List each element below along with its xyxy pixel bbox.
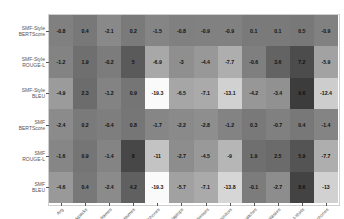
y-tick-label: SMF-StyleBLEU — [0, 87, 45, 99]
y-tick-label: SMF-StyleBERTScore — [0, 25, 45, 37]
heatmap-cell: -1.6 — [49, 140, 73, 171]
heatmap-cell: 1.9 — [242, 140, 266, 171]
heatmap-cell: -4.9 — [49, 78, 73, 109]
y-tick-label-line: BERTScore — [0, 31, 45, 37]
heatmap-cell: -2.2 — [169, 109, 193, 140]
heatmap-cell: 5.9 — [290, 140, 314, 171]
y-tick-label: SMFROUGE-L — [0, 150, 45, 162]
heatmap-cell: -2.7 — [169, 140, 193, 171]
heatmap-cell: 0.4 — [73, 172, 97, 203]
heatmap-cell: 0.4 — [290, 109, 314, 140]
x-tick — [302, 203, 303, 206]
heatmap-cell: -5.7 — [169, 172, 193, 203]
x-tick-label: backpacks — [69, 207, 88, 219]
heatmap-cell: -0.2 — [97, 46, 121, 77]
x-tick — [133, 203, 134, 206]
x-tick-label: bed-frames — [93, 207, 113, 219]
heatmap-cell: -1.5 — [145, 15, 169, 46]
x-tick-label: t-shirts — [292, 207, 305, 219]
heatmap-cell: -0.7 — [266, 109, 290, 140]
heatmap-cell: -19.3 — [145, 172, 169, 203]
y-tick-label: SMFBERTScore — [0, 119, 45, 131]
x-tick-label: costumes — [119, 207, 136, 219]
heatmap-cell: -6.9 — [145, 46, 169, 77]
x-tick-label: Avg — [55, 207, 64, 216]
heatmap-cell: -11 — [145, 140, 169, 171]
x-tick — [181, 203, 182, 206]
heatmap-cell: -19.3 — [145, 78, 169, 109]
y-tick — [46, 31, 49, 32]
heatmap-grid: -0.80.4-2.10.2-1.5-0.8-0.9-0.90.10.10.5-… — [49, 15, 338, 203]
x-tick-label: headphones — [140, 207, 161, 219]
y-tick-label-line: BERTScore — [0, 125, 45, 131]
y-tick — [46, 93, 49, 94]
heatmap-cell: -1.4 — [314, 109, 338, 140]
y-tick — [46, 156, 49, 157]
heatmap-cell: -0.8 — [49, 15, 73, 46]
heatmap-cell: 9.6 — [290, 78, 314, 109]
heatmap-chart: -0.80.4-2.10.2-1.5-0.8-0.9-0.90.10.10.5-… — [0, 0, 344, 219]
heatmap-cell: 1.9 — [73, 46, 97, 77]
heatmap-cell: 0.1 — [266, 15, 290, 46]
heatmap-cell: 0.5 — [290, 15, 314, 46]
heatmap-cell: -0.9 — [194, 15, 218, 46]
heatmap-cell: -9 — [218, 140, 242, 171]
heatmap-cell: -7.1 — [194, 172, 218, 203]
heatmap-cell: 0.3 — [242, 109, 266, 140]
heatmap-cell: -4.4 — [194, 46, 218, 77]
heatmap-cell: -4.5 — [194, 140, 218, 171]
heatmap-cell: -2.7 — [266, 172, 290, 203]
heatmap-cell: -0.4 — [97, 109, 121, 140]
x-tick-label: unlocked-phones — [301, 207, 329, 219]
heatmap-cell: -13.1 — [218, 78, 242, 109]
heatmap-cell: -5.9 — [314, 46, 338, 77]
x-tick — [109, 203, 110, 206]
x-tick — [326, 203, 327, 206]
heatmap-cell: -1.2 — [49, 46, 73, 77]
heatmap-cell: 0.4 — [73, 15, 97, 46]
heatmap-cell: -4.2 — [242, 78, 266, 109]
heatmap-cell: 2.5 — [266, 140, 290, 171]
heatmap-cell: -12.4 — [314, 78, 338, 109]
heatmap-cell: -0.9 — [218, 15, 242, 46]
heatmap-cell: 7.2 — [290, 46, 314, 77]
heatmap-cell: -2.4 — [49, 109, 73, 140]
heatmap-cell: 0.2 — [73, 109, 97, 140]
heatmap-cell: -13.8 — [218, 172, 242, 203]
heatmap-cell: 0.1 — [242, 15, 266, 46]
heatmap-cell: -0.9 — [314, 15, 338, 46]
x-tick-label: smartwatches — [234, 207, 258, 219]
heatmap-cell: 8 — [121, 140, 145, 171]
heatmap-cell: -0.6 — [242, 46, 266, 77]
y-tick-label: SMF-StyleROUGE-L — [0, 56, 45, 68]
heatmap-cell: -4.6 — [49, 172, 73, 203]
heatmap-cell: -3 — [169, 46, 193, 77]
x-tick-label: monitors — [217, 207, 233, 219]
heatmap-cell: 0.9 — [73, 140, 97, 171]
heatmap-cell: -1.7 — [145, 109, 169, 140]
heatmap-cell: 5 — [121, 46, 145, 77]
heatmap-cell: 0.2 — [121, 15, 145, 46]
y-tick-label: SMFBLEU — [0, 181, 45, 193]
x-tick — [85, 203, 86, 206]
x-tick — [157, 203, 158, 206]
heatmap-cell: 0.8 — [121, 109, 145, 140]
y-tick-label-line: BLEU — [0, 187, 45, 193]
heatmap-cell: -2.1 — [97, 15, 121, 46]
y-tick-label-line: BLEU — [0, 93, 45, 99]
y-tick — [46, 187, 49, 188]
heatmap-cell: 0.9 — [121, 78, 145, 109]
x-tick-label: mattresses — [190, 207, 209, 219]
x-tick-label: sunglasses — [262, 207, 282, 219]
heatmap-cell: 2.3 — [73, 78, 97, 109]
heatmap-cell: -2.4 — [97, 172, 121, 203]
y-tick — [46, 125, 49, 126]
heatmap-cell: -13 — [314, 172, 338, 203]
x-tick — [230, 203, 231, 206]
heatmap-cell: -1.4 — [97, 140, 121, 171]
y-tick-label-line: ROUGE-L — [0, 156, 45, 162]
x-tick — [206, 203, 207, 206]
heatmap-cell: -6.5 — [169, 78, 193, 109]
heatmap-cell: -1.2 — [218, 109, 242, 140]
x-tick-label: laptops — [171, 207, 185, 219]
